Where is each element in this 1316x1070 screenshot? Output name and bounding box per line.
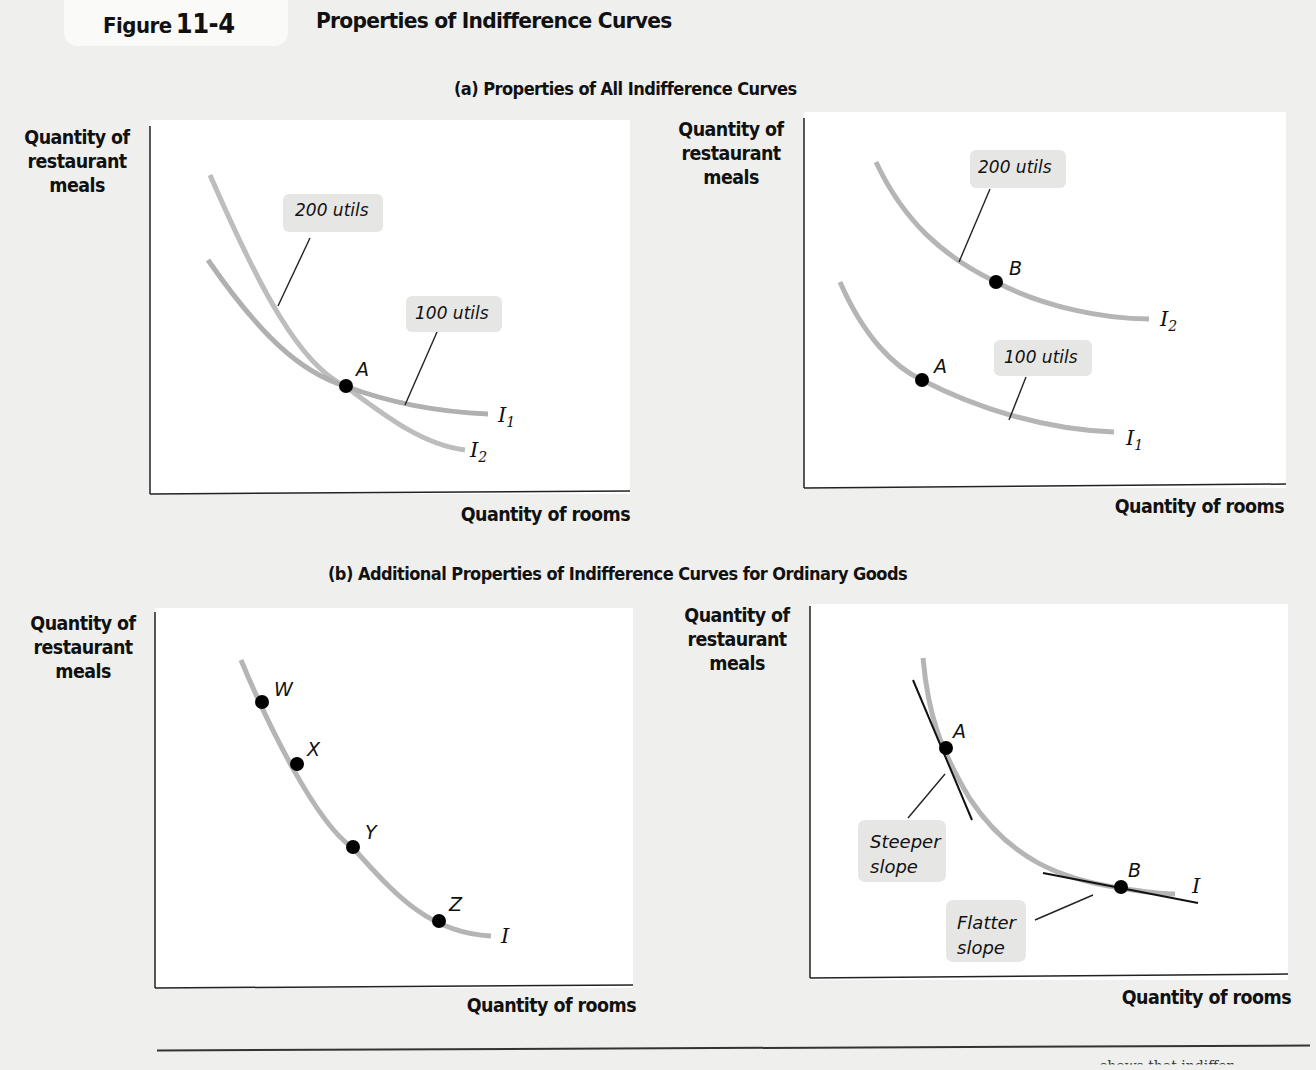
- label-point-A: A: [934, 355, 947, 377]
- y-label-line: restaurant: [20, 635, 147, 659]
- point-A: [939, 741, 953, 755]
- point-W: [255, 695, 269, 709]
- label-curve-I2: I2: [470, 438, 487, 465]
- figure-title: Properties of Indifference Curves: [316, 8, 672, 33]
- callout-100-utils: 100 utils: [1004, 347, 1078, 367]
- y-label-line: Quantity of: [20, 611, 147, 635]
- x-axis: [155, 985, 633, 988]
- chart-b-left-svg: [155, 608, 633, 988]
- point-A: [339, 379, 353, 393]
- callout-flatter-slope: Flatter slope: [957, 910, 1016, 960]
- point-X: [290, 757, 304, 771]
- x-axis: [804, 484, 1286, 488]
- callout-100-utils: 100 utils: [415, 303, 489, 323]
- y-label-line: meals: [14, 173, 141, 197]
- label-curve-I: I: [501, 924, 509, 948]
- chart-a-left-svg: [150, 120, 630, 494]
- figure-number: Figure11-4: [103, 8, 235, 39]
- y-label-line: Quantity of: [668, 117, 795, 141]
- point-B: [989, 275, 1003, 289]
- callout-200-utils: 200 utils: [295, 200, 369, 220]
- label-curve-I2: I2: [1160, 307, 1177, 334]
- callout-steeper-slope: Steeper slope: [870, 829, 941, 879]
- curve-subscript: 2: [1168, 318, 1177, 334]
- figure-label: Figure: [103, 13, 172, 38]
- x-axis: [810, 974, 1288, 978]
- curve-subscript: 2: [478, 449, 487, 465]
- point-A: [915, 373, 929, 387]
- point-Y: [346, 840, 360, 854]
- x-axis-label-a-right: Quantity of rooms: [1115, 495, 1284, 517]
- y-axis-label-a-left: Quantity of restaurant meals: [14, 125, 141, 197]
- leader-steeper: [908, 774, 945, 818]
- callout-line: Steeper: [870, 829, 941, 854]
- footer-divider: [157, 1044, 1310, 1051]
- x-axis-label-a-left: Quantity of rooms: [461, 503, 630, 525]
- plot-a-left: 200 utils 100 utils A I1 I2: [150, 120, 630, 494]
- y-label-line: Quantity of: [674, 603, 801, 627]
- label-point-A: A: [356, 358, 369, 380]
- leader-200: [278, 238, 310, 306]
- callout-line: slope: [870, 854, 941, 879]
- y-label-line: meals: [668, 165, 795, 189]
- curve-subscript: 1: [1134, 437, 1143, 453]
- curve-subscript: 1: [506, 414, 515, 430]
- figure-number-value: 11-4: [176, 8, 235, 39]
- y-label-line: meals: [20, 659, 147, 683]
- y-label-line: meals: [674, 651, 801, 675]
- callout-line: Flatter: [957, 910, 1016, 935]
- y-axis-label-b-right: Quantity of restaurant meals: [674, 603, 801, 675]
- label-curve-I1: I1: [1126, 426, 1143, 453]
- label-point-B: B: [1009, 257, 1022, 279]
- label-point-A: A: [953, 720, 966, 742]
- leader-100: [1009, 377, 1026, 420]
- label-curve-I1: I1: [498, 403, 515, 430]
- callout-line: slope: [957, 935, 1016, 960]
- leader-flatter: [1035, 895, 1093, 920]
- point-B: [1114, 880, 1128, 894]
- y-axis-label-a-right: Quantity of restaurant meals: [668, 117, 795, 189]
- label-point-Y: Y: [365, 821, 377, 843]
- x-axis-label-b-right: Quantity of rooms: [1122, 986, 1291, 1008]
- x-axis-label-b-left: Quantity of rooms: [467, 994, 636, 1016]
- x-axis: [150, 491, 630, 494]
- label-point-W: W: [274, 678, 293, 700]
- point-Z: [432, 914, 446, 928]
- y-label-line: Quantity of: [14, 125, 141, 149]
- y-label-line: restaurant: [674, 627, 801, 651]
- leader-100: [405, 332, 437, 405]
- label-curve-I: I: [1192, 874, 1200, 898]
- section-a-title: (a) Properties of All Indifference Curve…: [454, 78, 797, 99]
- label-point-B: B: [1128, 859, 1141, 881]
- chart-b-right-svg: [810, 604, 1288, 980]
- y-label-line: restaurant: [14, 149, 141, 173]
- y-label-line: restaurant: [668, 141, 795, 165]
- callout-200-utils: 200 utils: [978, 157, 1052, 177]
- label-point-Z: Z: [449, 893, 462, 915]
- caption-cut-text: shows that indiffer-: [1100, 1058, 1238, 1070]
- label-point-X: X: [307, 738, 320, 760]
- plot-a-right: 200 utils 100 utils B A I2 I1: [804, 112, 1286, 488]
- leader-200: [959, 189, 990, 262]
- section-b-title: (b) Additional Properties of Indifferenc…: [328, 563, 907, 584]
- y-axis-label-b-left: Quantity of restaurant meals: [20, 611, 147, 683]
- plot-b-left: W X Y Z I: [155, 608, 633, 988]
- plot-b-right: Steeper slope Flatter slope A B I: [810, 604, 1288, 980]
